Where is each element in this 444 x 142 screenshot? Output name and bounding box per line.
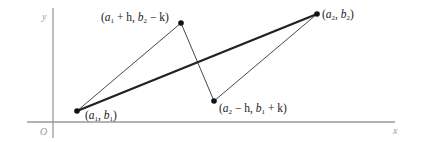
point-a1h-b2k — [178, 20, 184, 26]
x-axis-label: x — [392, 125, 398, 136]
point-a2-b2 — [314, 11, 320, 17]
segment-p4-p3 — [214, 14, 317, 101]
label-a1h-b2k: (a1 + h, b2 − k) — [101, 11, 169, 25]
label-a1-b1: (a1, b1) — [85, 109, 117, 123]
point-a1-b1 — [74, 108, 80, 114]
y-axis-label: y — [41, 11, 47, 22]
segment-p1-p2 — [77, 23, 181, 111]
coordinate-diagram: y x O (a1, b1) (a1 + h, b2 − k) (a2, b2)… — [0, 0, 444, 142]
point-a2h-b1k — [211, 98, 217, 104]
origin-label: O — [40, 126, 47, 137]
segment-p1-p3-thick — [77, 14, 317, 111]
label-a2h-b1k: (a2 − h, b1 + k) — [219, 102, 287, 116]
label-a2-b2: (a2, b2) — [322, 8, 354, 22]
